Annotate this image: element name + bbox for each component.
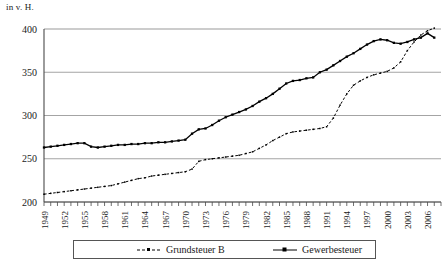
- y-axis-tick-label: 400: [22, 24, 37, 35]
- data-point-marker: [299, 130, 301, 132]
- data-point-marker: [137, 178, 139, 180]
- x-axis-tick-label: 1991: [322, 211, 332, 229]
- data-point-marker: [158, 174, 160, 176]
- data-point-marker: [386, 71, 388, 73]
- data-point-marker: [379, 38, 381, 40]
- x-axis-tick-label: 1976: [221, 211, 231, 230]
- y-axis-tick-label: 250: [22, 153, 37, 164]
- data-point-marker: [380, 72, 382, 74]
- x-axis-tick-label: 1964: [140, 211, 150, 230]
- data-point-marker: [312, 129, 314, 131]
- x-axis-tick-label: 1967: [161, 211, 171, 230]
- data-point-marker: [184, 139, 186, 141]
- chart-plot-area: 200250300350400 194919521955195819611964…: [0, 0, 447, 264]
- data-point-marker: [90, 145, 92, 147]
- data-point-marker: [333, 117, 335, 119]
- data-point-marker: [413, 41, 415, 43]
- data-point-marker: [164, 141, 166, 143]
- x-axis-tick-label: 1994: [342, 211, 352, 230]
- data-point-marker: [144, 142, 146, 144]
- data-point-marker: [57, 192, 59, 194]
- data-point-marker: [144, 177, 146, 179]
- data-point-marker: [137, 143, 139, 145]
- data-point-marker: [393, 42, 395, 44]
- legend-item-grundsteuer-b: Grundsteuer B: [136, 241, 225, 258]
- data-point-marker: [117, 144, 119, 146]
- x-axis-tick-label: 2006: [423, 211, 433, 230]
- x-axis-tick-label: 1955: [80, 211, 90, 230]
- y-axis-tick-label: 200: [22, 197, 37, 208]
- gridlines: [44, 29, 441, 202]
- data-point-marker: [319, 128, 321, 130]
- data-point-marker: [111, 185, 113, 187]
- data-point-marker: [326, 126, 328, 128]
- data-point-marker: [339, 60, 341, 62]
- data-point-marker: [50, 193, 52, 195]
- data-point-marker: [77, 189, 79, 191]
- data-point-marker: [218, 120, 220, 122]
- data-point-marker: [420, 34, 422, 36]
- data-point-marker: [305, 77, 307, 79]
- x-axis-tick-label: 1982: [262, 211, 272, 229]
- data-point-marker: [299, 79, 301, 81]
- legend-label-gewerbesteuer: Gewerbesteuer: [302, 241, 362, 258]
- data-point-marker: [63, 144, 65, 146]
- legend-item-gewerbesteuer: Gewerbesteuer: [272, 241, 362, 258]
- data-series: [43, 27, 436, 195]
- y-axis-tick-label: 350: [22, 67, 37, 78]
- data-point-marker: [279, 136, 281, 138]
- data-point-marker: [90, 187, 92, 189]
- data-point-marker: [178, 172, 180, 174]
- data-point-marker: [366, 77, 368, 79]
- data-point-marker: [171, 140, 173, 142]
- data-point-marker: [434, 27, 436, 29]
- data-point-marker: [366, 43, 368, 45]
- data-point-marker: [426, 32, 428, 34]
- data-point-marker: [43, 193, 45, 195]
- y-axis-tick-labels: 200250300350400: [22, 24, 37, 208]
- data-point-marker: [373, 74, 375, 76]
- data-point-marker: [399, 43, 401, 45]
- x-axis-tick-label: 1952: [60, 211, 70, 229]
- data-point-marker: [63, 191, 65, 193]
- data-point-marker: [285, 82, 287, 84]
- data-point-marker: [205, 159, 207, 161]
- data-point-marker: [43, 146, 45, 148]
- x-axis-tick-label: 1961: [120, 211, 130, 229]
- data-point-marker: [251, 105, 253, 107]
- data-point-marker: [70, 190, 72, 192]
- data-point-marker: [407, 50, 409, 52]
- data-point-marker: [157, 141, 159, 143]
- data-point-marker: [259, 148, 261, 150]
- data-point-marker: [211, 124, 213, 126]
- x-axis-tick-label: 1949: [40, 211, 50, 230]
- data-point-marker: [130, 143, 132, 145]
- x-axis-tick-label: 1970: [181, 211, 191, 230]
- data-point-marker: [245, 108, 247, 110]
- data-point-marker: [50, 145, 52, 147]
- chart-container: in v. H. 200250300350400 194919521955195…: [0, 0, 447, 264]
- data-point-marker: [406, 41, 408, 43]
- data-point-marker: [346, 56, 348, 58]
- y-axis-tick-label: 300: [22, 110, 37, 121]
- data-point-marker: [218, 157, 220, 159]
- data-point-marker: [359, 48, 361, 50]
- data-point-marker: [204, 127, 206, 129]
- data-point-marker: [306, 129, 308, 131]
- data-point-marker: [151, 142, 153, 144]
- data-point-marker: [225, 156, 227, 158]
- data-point-marker: [151, 175, 153, 177]
- data-point-marker: [420, 37, 422, 39]
- data-point-marker: [252, 151, 254, 153]
- data-point-marker: [393, 67, 395, 69]
- legend-swatch-solid-icon: [272, 245, 298, 255]
- data-point-marker: [285, 133, 287, 135]
- x-axis-tick-label: 1958: [100, 211, 110, 230]
- data-point-marker: [83, 142, 85, 144]
- x-axis-tick-labels: 1949195219551958196119641967197019731976…: [40, 211, 434, 230]
- data-point-marker: [232, 155, 234, 157]
- data-point-marker: [265, 97, 267, 99]
- data-point-marker: [191, 133, 193, 135]
- data-point-marker: [400, 61, 402, 63]
- data-point-marker: [360, 80, 362, 82]
